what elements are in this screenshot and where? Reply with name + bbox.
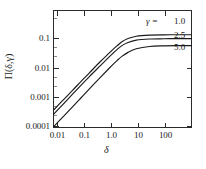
x-major-ticks-top (58, 11, 166, 16)
x-major-ticks (58, 123, 166, 128)
legend-prefix-text: γ = (146, 16, 158, 26)
y-major-ticks-right (187, 39, 192, 127)
legend-entry-1: 2.5 (174, 30, 185, 40)
x-tick-label-2: 1.0 (96, 130, 127, 140)
legend-entry-0: 1.0 (174, 16, 185, 26)
x-tick-label-4: 100 (150, 130, 181, 140)
y-axis-title: Π(δ,γ) (3, 32, 14, 102)
curve-gamma-5.0 (54, 46, 192, 127)
legend-entry-2: 5.0 (174, 42, 185, 52)
chart-figure: 0.1 0.01 0.001 0.0001 0.01 0.1 1.0 10 10… (0, 0, 206, 169)
x-axis-title: δ (104, 144, 109, 155)
curve-gamma-2.5 (54, 39, 192, 115)
data-curves (54, 35, 192, 127)
axes-frame (53, 10, 192, 128)
x-tick-label-3: 10 (124, 130, 153, 140)
legend-prefix-gamma: γ = (146, 16, 158, 26)
